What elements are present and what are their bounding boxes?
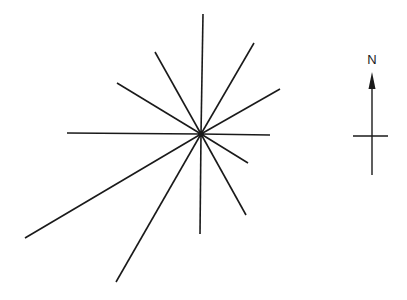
ray-ssw [116,134,201,282]
north-label: N [367,52,376,67]
ray-wnw [117,83,201,134]
ray-w [67,133,201,134]
ray-n [201,14,203,134]
ray-ene [201,89,280,134]
ray-ese [201,134,248,163]
ray-sw [25,134,201,238]
ray-nne [201,43,254,134]
north-arrowhead-icon [369,72,376,89]
center-point [198,131,204,137]
ray-s [200,134,201,234]
north-arrow: N [353,52,388,175]
ray-sse [201,134,246,215]
ray-nnw [155,52,201,134]
ray-e [201,134,270,135]
ray-group [25,14,280,282]
rose-diagram: N [0,0,407,300]
